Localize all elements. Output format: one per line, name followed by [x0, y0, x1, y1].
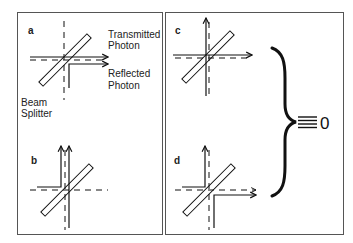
curly-brace-icon	[272, 48, 296, 196]
beam-splitter-label-line2: Splitter	[21, 108, 53, 119]
panel-label-a: a	[28, 25, 34, 36]
reflected-up-arrow	[37, 146, 61, 187]
equals-zero-value: 0	[320, 114, 329, 133]
panel-c: c	[173, 18, 252, 98]
equivalence-symbol-icon	[298, 117, 317, 128]
panel-label-b: b	[31, 155, 37, 166]
transmitted-label-line1: Transmitted	[108, 29, 160, 40]
reflected-label-line2: Photon	[108, 80, 140, 91]
reflected-up-arrow	[182, 146, 205, 187]
reflected-photon-arrow	[69, 64, 108, 88]
reflected-right-arrow	[214, 195, 256, 228]
beam-splitter-diagram: a Transmitted Photon Reflected Photon Be…	[0, 0, 353, 243]
panel-label-d: d	[174, 155, 180, 166]
panel-b: b	[30, 146, 108, 230]
reflected-label-line1: Reflected	[108, 68, 150, 79]
beam-splitter-label-line1: Beam	[21, 97, 47, 108]
panel-label-c: c	[175, 25, 181, 36]
panel-d: d	[174, 146, 256, 230]
beam-splitter-icon	[182, 31, 234, 83]
panel-a: a Transmitted Photon Reflected Photon Be…	[21, 21, 160, 119]
transmitted-label-line2: Photon	[108, 40, 140, 51]
